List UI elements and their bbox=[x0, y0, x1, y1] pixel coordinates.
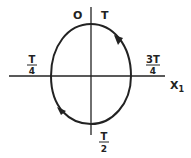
axis-label-x1: X1 bbox=[170, 79, 184, 94]
orbit-diagram: O T T 4 3T 4 X1 T 2 bbox=[0, 0, 191, 158]
label-t-over-2-denominator: 2 bbox=[101, 144, 107, 154]
label-3t-over-4-numerator: 3T bbox=[146, 54, 160, 65]
label-o: O bbox=[73, 9, 82, 22]
label-t: T bbox=[101, 9, 109, 22]
label-t-over-4-numerator: T bbox=[29, 54, 36, 65]
label-t-over-2-numerator: T bbox=[101, 131, 108, 142]
label-3t-over-4-denominator: 4 bbox=[150, 66, 156, 76]
label-t-over-4-denominator: 4 bbox=[29, 66, 35, 76]
